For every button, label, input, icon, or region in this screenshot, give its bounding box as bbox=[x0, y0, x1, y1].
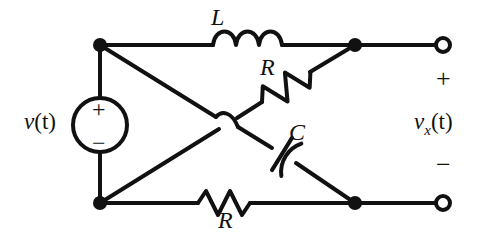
source-voltage-label: v(t) bbox=[24, 110, 56, 133]
capacitor-label: C bbox=[289, 120, 305, 144]
wire-diagonal-r-upper-segment bbox=[310, 45, 355, 72]
bottom-right-node-dot bbox=[348, 196, 362, 210]
inductor-coil-icon bbox=[213, 32, 282, 46]
output-voltage-variable: v bbox=[414, 109, 424, 134]
source-voltage-variable: v bbox=[24, 109, 34, 134]
source-voltage-argument: (t) bbox=[34, 109, 56, 134]
wire-diagonal-c-left-lead bbox=[238, 127, 272, 148]
wire-diagonal-c-right-lead bbox=[296, 163, 355, 203]
top-left-node-dot bbox=[93, 38, 107, 52]
output-terminal-negative-icon bbox=[436, 196, 450, 210]
output-voltage-subscript: x bbox=[424, 122, 431, 138]
resistor-bottom-label: R bbox=[218, 208, 233, 232]
circuit-diagram: L R C R v(t) vx(t) + − + − bbox=[0, 0, 485, 245]
bottom-left-node-dot bbox=[93, 196, 107, 210]
output-minus-sign: − bbox=[436, 152, 451, 178]
circuit-schematic-svg bbox=[0, 0, 485, 245]
source-plus-sign: + bbox=[92, 97, 106, 121]
wire-diagonal-r-middle-segment bbox=[237, 102, 262, 118]
output-plus-sign: + bbox=[436, 66, 451, 92]
wire-hop-arc-icon bbox=[216, 113, 238, 127]
output-voltage-label: vx(t) bbox=[414, 110, 453, 138]
top-right-node-dot bbox=[348, 38, 362, 52]
source-minus-sign: − bbox=[92, 131, 106, 155]
output-terminal-positive-icon bbox=[436, 38, 450, 52]
resistor-diagonal-label: R bbox=[260, 55, 275, 79]
output-voltage-argument: (t) bbox=[431, 109, 453, 134]
inductor-label: L bbox=[211, 5, 224, 29]
